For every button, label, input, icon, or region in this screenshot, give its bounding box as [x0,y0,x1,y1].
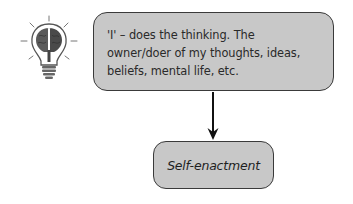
concept-box-label: Self-enactment [167,158,260,173]
arrow-down-icon [206,92,220,142]
brain-lightbulb-icon [18,14,80,82]
concept-box-text: 'I' – does the thinking. The owner/doer … [107,28,300,78]
concept-box-self-enactment: Self-enactment [153,141,274,189]
concept-box-i-thinker: 'I' – does the thinking. The owner/doer … [93,12,334,91]
